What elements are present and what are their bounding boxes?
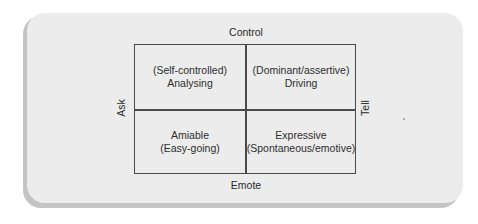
quadrant-descriptor: (Easy-going) [160,142,220,155]
quadrant-title: Driving [285,77,318,90]
quadrant-descriptor: (Dominant/assertive) [253,64,350,77]
quadrant-title: Amiable [171,129,209,142]
quadrant-analysing: (Self-controlled) Analysing [135,45,245,109]
quadrant-descriptor: (Spontaneous/emotive) [247,142,356,155]
quadrant-title: Expressive [275,129,326,142]
quadrant-driving: (Dominant/assertive) Driving [246,45,356,109]
axis-label-tell: Tell [359,93,371,123]
quadrant-title: Analysing [167,77,213,90]
quadrant-amiable: Amiable (Easy-going) [135,110,245,174]
axis-label-ask: Ask [115,93,127,123]
axis-label-control: Control [0,26,478,38]
axis-label-emote: Emote [0,179,478,191]
quadrant-grid: (Self-controlled) Analysing (Dominant/as… [134,44,356,174]
quadrant-descriptor: (Self-controlled) [153,64,227,77]
quadrant-expressive: Expressive (Spontaneous/emotive) [246,110,356,174]
scan-speck [403,118,405,120]
